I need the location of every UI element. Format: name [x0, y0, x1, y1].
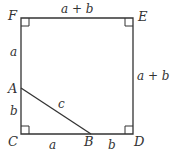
square-fedc: [21, 18, 133, 134]
right-angle-marker-d: [125, 126, 133, 134]
segment-label-ed: a + b: [137, 69, 170, 83]
vertex-label-f: F: [7, 8, 18, 23]
segment-label-fe: a + b: [61, 2, 94, 16]
vertex-label-c: C: [8, 134, 18, 149]
segment-label-cb: a: [49, 138, 56, 152]
segment-label-fa: a: [10, 45, 17, 59]
right-angle-marker-e: [125, 18, 133, 26]
vertex-label-e: E: [137, 9, 148, 24]
right-angle-marker-c: [21, 126, 29, 134]
segment-label-ab: c: [58, 97, 65, 111]
vertex-label-a: A: [7, 81, 17, 96]
segment-ab: [21, 88, 91, 134]
diagram-canvas: F E A C B D a + b a + b a b a b c: [0, 0, 171, 157]
vertex-label-b: B: [83, 134, 94, 149]
right-angle-marker-f: [21, 18, 29, 26]
vertex-label-d: D: [133, 134, 145, 149]
segment-label-bd: b: [108, 138, 116, 152]
segment-label-ac: b: [10, 104, 18, 118]
